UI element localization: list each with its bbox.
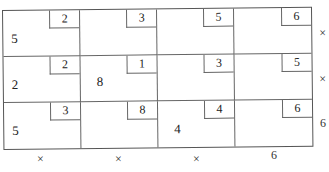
cell-value: 4 [174,121,181,137]
cell-r1-c1: 2 5 [3,10,80,57]
cell-tag: 6 [282,100,312,118]
col-hint-3: × [193,152,200,167]
cell-value: 5 [12,123,19,139]
cell-r2-c3: 3 [157,55,234,102]
cell-r1-c3: 5 [157,9,234,56]
cell-r3-c3: 4 4 [158,101,235,148]
cell-tag: 2 [49,56,79,74]
cell-value: 8 [97,74,104,90]
cell-r3-c1: 3 5 [4,102,81,149]
col-hint-2: × [115,152,122,167]
puzzle-grid: 2 5 3 5 6 2 2 1 8 3 5 3 5 8 4 4 6 [2,7,313,150]
cell-tag: 4 [204,101,234,119]
cell-tag: 5 [281,54,311,72]
row-hint-2: × [319,72,326,87]
cell-tag: 3 [126,9,156,27]
cell-r1-c4: 6 [234,8,311,55]
row-hint-1: × [319,26,326,41]
cell-r3-c2: 8 [81,101,158,148]
cell-value: 2 [12,77,19,93]
cell-tag: 2 [49,10,79,28]
cell-tag: 6 [281,8,311,26]
cell-r2-c4: 5 [234,54,311,101]
cell-tag: 3 [203,55,233,73]
col-hint-1: × [37,152,44,167]
col-hint-4: 6 [271,148,277,163]
cell-tag: 3 [50,102,80,120]
row-hint-3: 6 [320,116,326,131]
cell-tag: 5 [203,9,233,27]
cell-tag: 8 [127,101,157,119]
cell-r3-c4: 6 [235,100,312,147]
cell-tag: 1 [126,55,156,73]
cell-r2-c2: 1 8 [80,55,157,102]
cell-r1-c2: 3 [80,9,157,56]
cell-r2-c1: 2 2 [3,56,80,103]
cell-value: 5 [11,31,18,47]
